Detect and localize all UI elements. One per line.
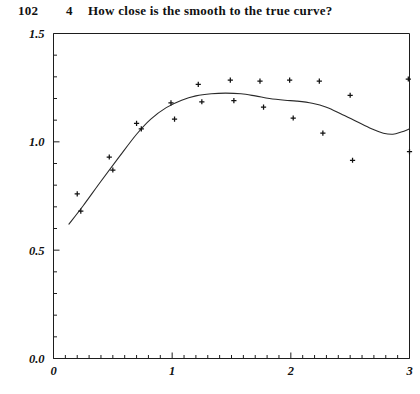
x-axis-tick-label: 1 bbox=[169, 364, 175, 378]
data-point-marker bbox=[350, 158, 355, 163]
data-point-marker bbox=[199, 99, 204, 104]
x-axis-tick-label: 0 bbox=[50, 364, 57, 378]
chart-canvas: 0.00.51.01.50123 bbox=[0, 0, 420, 394]
data-point-marker bbox=[78, 209, 83, 214]
data-point-marker bbox=[257, 79, 262, 84]
data-point-marker bbox=[228, 77, 233, 82]
y-axis-tick-label: 1.0 bbox=[29, 135, 45, 149]
data-point-marker bbox=[107, 154, 112, 159]
y-axis-tick-label: 1.5 bbox=[29, 27, 45, 41]
plot-frame bbox=[54, 34, 410, 359]
x-axis-tick-label: 3 bbox=[405, 364, 412, 378]
data-point-marker bbox=[406, 76, 411, 81]
y-axis-tick-label: 0.0 bbox=[29, 352, 45, 366]
x-axis-tick-label: 2 bbox=[287, 364, 294, 378]
data-point-marker bbox=[231, 98, 236, 103]
y-axis-tick-label: 0.5 bbox=[29, 244, 45, 258]
data-point-marker bbox=[407, 149, 412, 154]
scatter-points-group bbox=[75, 76, 412, 213]
data-point-marker bbox=[291, 115, 296, 120]
data-point-marker bbox=[134, 121, 139, 126]
scatter-plot-figure: 0.00.51.01.50123 bbox=[0, 0, 420, 394]
smooth-curve-line bbox=[69, 93, 410, 224]
data-point-marker bbox=[75, 191, 80, 196]
book-page: 102 4 How close is the smooth to the tru… bbox=[0, 0, 420, 394]
data-point-marker bbox=[172, 116, 177, 121]
data-point-marker bbox=[317, 79, 322, 84]
data-point-marker bbox=[196, 82, 201, 87]
data-point-marker bbox=[320, 131, 325, 136]
data-point-marker bbox=[287, 77, 292, 82]
data-point-marker bbox=[261, 105, 266, 110]
data-point-marker bbox=[348, 93, 353, 98]
